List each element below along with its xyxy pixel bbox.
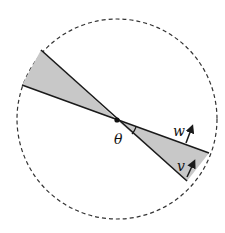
line-steep	[41, 50, 187, 181]
v-label: v	[177, 158, 185, 174]
wedge-lower-right	[117, 120, 209, 181]
center-point	[114, 117, 119, 122]
theta-label: θ	[114, 131, 123, 147]
double-cone-diagram: θ w v	[0, 0, 225, 233]
wedge-upper-left	[22, 50, 117, 120]
w-label: w	[173, 123, 185, 139]
w-arrow-icon	[186, 127, 192, 143]
